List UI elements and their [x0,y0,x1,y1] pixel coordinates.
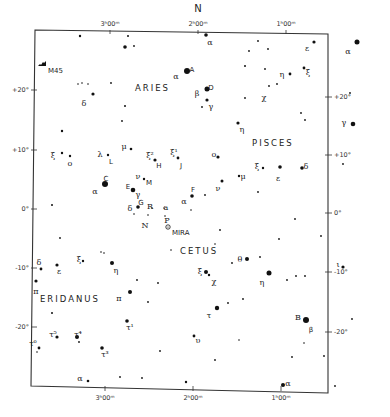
star-icon [141,377,143,379]
star-icon [127,35,129,37]
star-icon [34,279,37,282]
star-icon [303,317,309,323]
star-label: N [142,221,149,230]
star-icon [157,282,159,284]
star-icon [69,155,71,157]
star-icon [185,381,187,383]
star-label: ν [136,172,141,181]
star-icon [110,82,112,84]
star-letter-label: L [109,158,113,166]
star-icon [38,347,41,350]
star-label: τ⁵ [49,330,57,339]
constellation-label-pisces: PISCES [252,138,294,148]
star-icon [276,83,278,85]
star-icon [81,82,83,84]
star-icon [312,40,315,43]
star-icon [40,268,43,271]
star-icon [257,191,259,193]
star-icon [100,251,102,253]
ra-tick-label-top: 3ʰ00ᵐ [100,20,119,28]
star-label: B [295,313,301,322]
star-icon [147,301,149,303]
star-icon [170,249,172,251]
star-icon [267,48,269,50]
star-label: α [207,38,213,47]
star-icon [248,50,250,52]
star-icon [334,385,336,387]
dec-tick-label-left: +20° [12,86,29,94]
star-icon [130,148,133,151]
star-icon [262,167,264,169]
star-label: λ [97,150,102,159]
star-cluster-icon [38,61,46,66]
star-icon [355,40,360,45]
star-icon [268,85,270,87]
star-icon [242,298,244,300]
constellation-label-eridanus: ERIDANUS [40,294,100,304]
star-chart: 3ʰ00ᵐ3ʰ00ᵐ2ʰ00ᵐ2ʰ00ᵐ1ʰ00ᵐ1ʰ00ᵐ+20°+20°+1… [0,0,390,417]
star-icon [304,119,306,121]
star-label: ξ [306,68,311,77]
star-label: ξ [255,162,260,171]
star-icon [278,165,282,169]
star-icon [82,260,84,262]
star-icon [87,83,89,85]
object-label: MIRA [172,229,190,237]
dec-tick-label-left: -20° [15,323,29,331]
star-label: ξ² [146,151,154,160]
dec-tick-label-right: 0° [334,209,341,217]
north-label: N [194,3,201,14]
star-letter-label: M [146,179,152,187]
star-icon [78,341,80,343]
star-icon [204,194,206,196]
dec-tick-label-left: -10° [15,264,29,272]
star-icon [227,302,229,304]
star-icon [204,270,208,274]
star-icon [300,112,302,114]
star-label: χ [262,93,267,102]
star-label: μ [240,172,245,181]
ra-tick-label-bottom: 3ʰ00ᵐ [95,394,114,402]
star-icon [341,265,344,268]
star-icon [304,275,306,277]
star-label: γ [209,102,214,111]
star-label: P [164,216,170,225]
star-label: ε [276,174,280,183]
dec-tick-label-left: 0° [22,205,29,213]
star-letter-label: D [208,84,213,92]
star-icon [214,243,216,245]
star-label: δ [128,204,133,213]
star-icon [323,355,325,357]
star-icon [208,274,210,276]
star-label: π [33,287,38,296]
star-label: a [164,203,169,212]
star-icon [351,318,353,320]
star-icon [61,130,63,132]
star-label: ξ [51,151,56,160]
star-icon [119,376,121,378]
star-label: R [147,202,154,211]
star-icon [79,35,81,37]
star-letter-label: A [190,66,195,74]
star-icon [123,45,127,49]
star-icon [231,262,233,264]
star-label: ο [212,150,217,159]
star-icon [320,235,322,237]
star-icon [77,83,79,85]
star-icon [133,45,135,47]
star-icon [257,40,259,42]
star-icon [349,92,351,94]
star-label: υ [196,336,201,345]
star-label: ξ [77,255,82,264]
star-label: γ [136,190,141,199]
star-icon [159,350,161,352]
star-icon [190,209,192,211]
star-icon [215,306,219,310]
star-label: η [114,266,119,275]
constellation-label-aries: ARIES [135,83,170,93]
star-label: ε [57,267,61,276]
star-label: ι [336,260,339,269]
star-icon [204,33,208,37]
star-label: η [260,278,265,287]
star-letter-label: C [104,175,109,183]
